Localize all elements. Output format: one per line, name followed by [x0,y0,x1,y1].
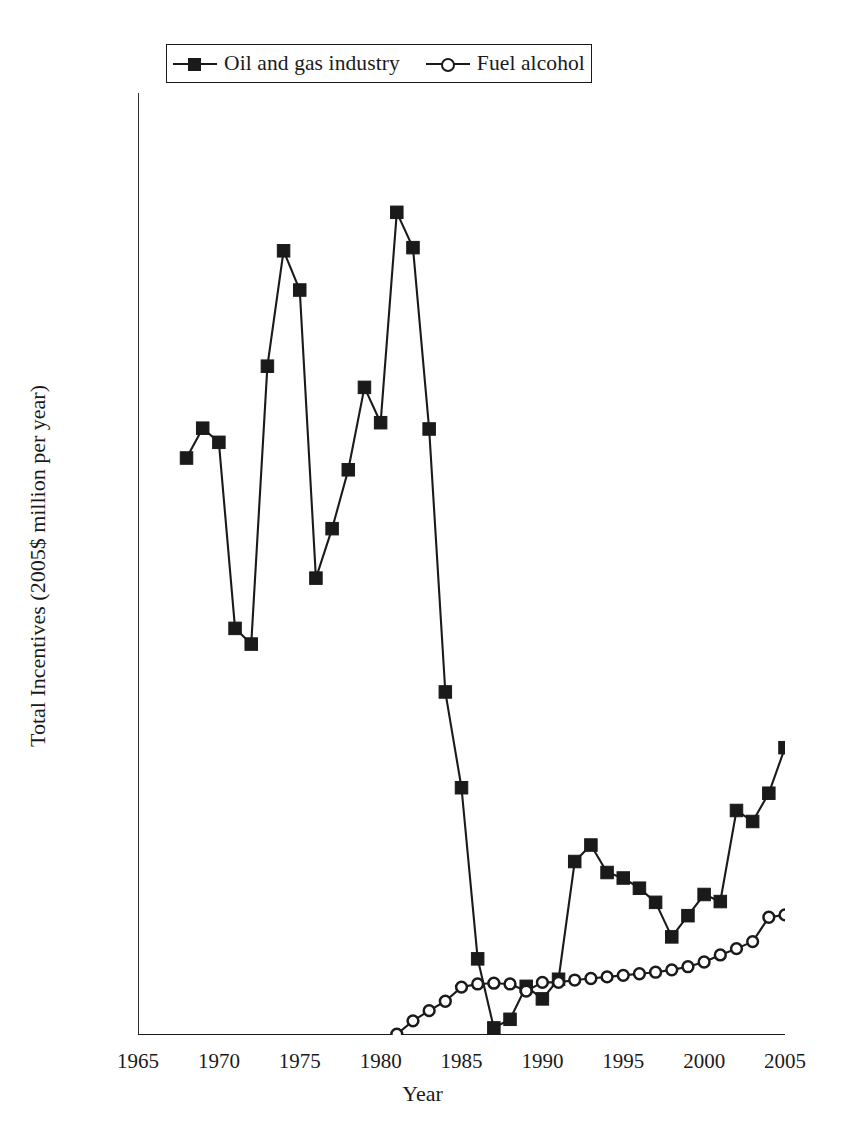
x-tick-label: 1970 [198,1051,240,1072]
x-tick-label: 1990 [521,1051,563,1072]
chart-figure: Oil and gas industry Fuel alcohol 020004… [0,0,845,1131]
x-tick-label: 1965 [117,1051,159,1072]
x-tick-label: 2000 [683,1051,725,1072]
x-axis-tick-labels: 196519701975198019851990199520002005 [0,0,845,1131]
x-tick-label: 1995 [602,1051,644,1072]
x-tick-label: 1985 [441,1051,483,1072]
y-axis-title: Total Incentives (2005$ million per year… [27,246,49,886]
x-tick-label: 1980 [360,1051,402,1072]
x-tick-label: 2005 [764,1051,806,1072]
x-axis-title: Year [0,1083,845,1105]
x-tick-label: 1975 [279,1051,321,1072]
